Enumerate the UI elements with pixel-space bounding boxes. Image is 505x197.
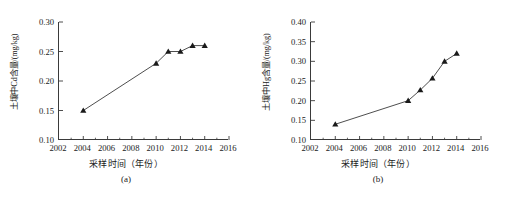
x-tick-label: 2004	[326, 143, 343, 153]
y-tick-label: 0.35	[260, 37, 306, 46]
x-tick-labels-a: 20022004200620082010201220142016	[58, 143, 228, 155]
plot-area-a	[58, 22, 228, 140]
x-tick-label: 2008	[374, 143, 391, 153]
chart-panel-a: 土壤中Cd含量/(mg/kg) 0.100.150.200.250.30 200…	[0, 0, 252, 197]
x-axis-label-b: 采样时间（年份）	[252, 157, 504, 170]
y-tick-labels-a: 0.100.150.200.250.30	[4, 22, 54, 140]
data-point-marker	[80, 107, 86, 112]
x-tick-label: 2012	[423, 143, 440, 153]
panel-caption-a: (a)	[0, 174, 252, 184]
x-tick-label: 2010	[399, 143, 416, 153]
y-tick-label: 0.15	[8, 106, 54, 115]
x-tick-label: 2014	[447, 143, 464, 153]
x-tick-label: 2008	[122, 143, 139, 153]
series-line-a	[59, 22, 229, 140]
x-tick-label: 2006	[98, 143, 115, 153]
series-line-b	[311, 22, 481, 140]
y-tick-label: 0.15	[260, 116, 306, 125]
y-tick-labels-b: 0.100.150.200.250.300.350.40	[256, 22, 306, 140]
x-tick-label: 2014	[195, 143, 212, 153]
x-tick-label: 2016	[219, 143, 236, 153]
y-tick-label: 0.10	[260, 136, 306, 145]
data-point-marker	[441, 58, 447, 63]
x-tick-label: 2006	[350, 143, 367, 153]
y-tick-label: 0.30	[260, 57, 306, 66]
data-point-marker	[454, 50, 460, 55]
y-tick-label: 0.30	[8, 18, 54, 27]
x-tick-label: 2004	[74, 143, 91, 153]
x-tick-label: 2016	[471, 143, 488, 153]
x-tick-label: 2010	[147, 143, 164, 153]
y-tick-label: 0.20	[8, 77, 54, 86]
x-tick-labels-b: 20022004200620082010201220142016	[310, 143, 480, 155]
y-tick-label: 0.25	[260, 77, 306, 86]
x-tick-label: 2002	[49, 143, 66, 153]
y-tick-label: 0.25	[8, 47, 54, 56]
y-tick-label: 0.20	[260, 96, 306, 105]
figure-panel-row: 土壤中Cd含量/(mg/kg) 0.100.150.200.250.30 200…	[0, 0, 505, 197]
plot-area-b	[310, 22, 480, 140]
chart-panel-b: 土壤中Hg含量/(mg/kg) 0.100.150.200.250.300.35…	[252, 0, 504, 197]
x-tick-label: 2012	[171, 143, 188, 153]
x-tick-label: 2002	[301, 143, 318, 153]
x-axis-label-a: 采样时间（年份）	[0, 157, 252, 170]
y-tick-label: 0.10	[8, 136, 54, 145]
panel-caption-b: (b)	[252, 174, 504, 184]
y-tick-label: 0.40	[260, 18, 306, 27]
